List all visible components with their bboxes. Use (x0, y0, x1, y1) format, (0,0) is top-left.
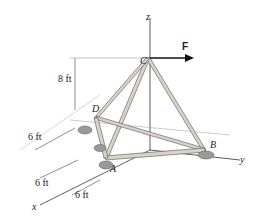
truss-diagram: z y x 8 ft 6 ft 6 ft 6 ft C D A B F (0, 0, 253, 221)
dimension-label-lower-left: 6 ft (35, 177, 49, 188)
member-AB (104, 148, 206, 160)
x-axis (40, 150, 150, 205)
force-label: F (182, 41, 188, 52)
point-label-A: A (109, 163, 117, 174)
member-CA (104, 58, 150, 158)
member-DA (94, 118, 108, 158)
support-foot (94, 145, 106, 152)
dimension-line (40, 160, 78, 178)
x-axis-label: x (31, 201, 37, 212)
support-B (198, 151, 214, 159)
point-label-B: B (210, 139, 216, 150)
point-label-D: D (91, 103, 100, 114)
member-CD (94, 58, 150, 118)
force-arrow-icon (185, 54, 194, 62)
dimension-label-upper-left: 6 ft (28, 131, 42, 142)
height-dimension-label: 8 ft (58, 73, 72, 84)
point-label-C: C (140, 55, 147, 66)
support-D (78, 126, 92, 134)
z-axis-label: z (145, 11, 150, 22)
y-axis-label: y (239, 154, 245, 165)
dimension-label-bottom: 6 ft (75, 189, 89, 200)
